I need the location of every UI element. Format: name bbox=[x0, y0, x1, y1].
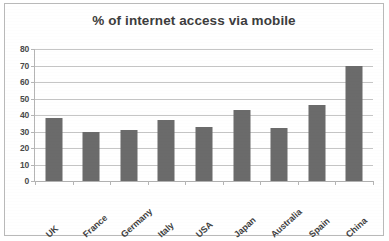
x-axis-label-italy: Italy bbox=[156, 220, 176, 239]
bar-slot bbox=[110, 49, 148, 181]
y-tick-label-30: 30 bbox=[5, 127, 29, 137]
bar-slot bbox=[335, 49, 373, 181]
x-tick-mark bbox=[260, 181, 261, 185]
chart-title: % of internet access via mobile bbox=[5, 13, 383, 28]
x-axis-label-australia: Australia bbox=[269, 207, 304, 240]
x-axis-label-china: China bbox=[344, 216, 369, 240]
bar-japan[interactable] bbox=[233, 110, 250, 181]
y-tick-label-40: 40 bbox=[5, 110, 29, 120]
bar-slot bbox=[148, 49, 186, 181]
gridline-0 bbox=[35, 181, 373, 182]
bar-usa[interactable] bbox=[195, 127, 212, 181]
x-axis-label-uk: UK bbox=[44, 223, 60, 239]
y-tick-label-20: 20 bbox=[5, 143, 29, 153]
bar-uk[interactable] bbox=[45, 118, 62, 181]
y-tick-label-60: 60 bbox=[5, 77, 29, 87]
y-tick-label-50: 50 bbox=[5, 94, 29, 104]
x-tick-mark bbox=[298, 181, 299, 185]
x-tick-mark bbox=[373, 181, 374, 185]
bar-series bbox=[35, 49, 373, 181]
plot-inner: 01020304050607080 bbox=[35, 49, 373, 181]
x-axis-label-usa: USA bbox=[194, 219, 215, 239]
x-tick-mark bbox=[73, 181, 74, 185]
y-tick-label-80: 80 bbox=[5, 44, 29, 54]
x-axis-label-germany: Germany bbox=[119, 206, 154, 239]
bar-slot bbox=[260, 49, 298, 181]
x-axis-label-japan: Japan bbox=[232, 215, 258, 240]
x-tick-mark bbox=[110, 181, 111, 185]
x-axis-label-france: France bbox=[81, 213, 109, 240]
bar-slot bbox=[73, 49, 111, 181]
bar-france[interactable] bbox=[83, 132, 100, 182]
y-tick-label-10: 10 bbox=[5, 160, 29, 170]
x-axis-label-spain: Spain bbox=[307, 216, 332, 240]
bar-germany[interactable] bbox=[120, 130, 137, 181]
x-tick-mark bbox=[185, 181, 186, 185]
bar-italy[interactable] bbox=[158, 120, 175, 181]
bar-australia[interactable] bbox=[271, 128, 288, 181]
chart-frame: % of internet access via mobile 01020304… bbox=[4, 3, 384, 236]
x-tick-mark bbox=[223, 181, 224, 185]
y-tick-label-0: 0 bbox=[5, 176, 29, 186]
bar-slot bbox=[298, 49, 336, 181]
bar-slot bbox=[223, 49, 261, 181]
x-tick-mark bbox=[35, 181, 36, 185]
bar-slot bbox=[35, 49, 73, 181]
bar-china[interactable] bbox=[346, 66, 363, 182]
x-tick-mark bbox=[148, 181, 149, 185]
plot-area: 01020304050607080 UKFranceGermanyItalyUS… bbox=[35, 48, 373, 184]
bar-spain[interactable] bbox=[308, 105, 325, 181]
bar-slot bbox=[185, 49, 223, 181]
x-tick-mark bbox=[335, 181, 336, 185]
y-tick-label-70: 70 bbox=[5, 61, 29, 71]
